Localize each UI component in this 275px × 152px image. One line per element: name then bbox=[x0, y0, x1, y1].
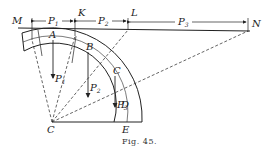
dim-P3: P3 bbox=[177, 16, 189, 28]
label-N: N bbox=[251, 18, 262, 29]
label-C-top: C bbox=[113, 65, 121, 76]
label-M: M bbox=[11, 15, 23, 26]
force-P1: P1 bbox=[54, 73, 66, 85]
figure-caption: Fig. 45. bbox=[122, 137, 157, 146]
figure-45-diagram: M K L N P1 P2 P3 A B C D C E P1 P2 P3 Fi… bbox=[0, 0, 275, 152]
label-E: E bbox=[121, 124, 130, 135]
dim-P1: P1 bbox=[47, 15, 59, 27]
label-A: A bbox=[48, 29, 56, 40]
label-B: B bbox=[85, 41, 93, 52]
joints bbox=[38, 30, 76, 63]
force-P2: P2 bbox=[89, 82, 101, 94]
label-K: K bbox=[77, 7, 86, 18]
label-C: C bbox=[47, 124, 55, 135]
label-L: L bbox=[130, 7, 138, 18]
dim-P2: P2 bbox=[97, 15, 109, 27]
